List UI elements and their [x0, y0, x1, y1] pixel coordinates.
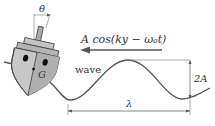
theta-arrowhead	[47, 14, 51, 17]
wave-direction-arrowhead	[80, 47, 90, 54]
amplitude-arrow-top	[189, 60, 192, 64]
diagram-drawing	[0, 0, 215, 126]
wave-expression-label: A cos(ky − ω₀t)	[81, 34, 166, 45]
wave-label: wave	[75, 65, 101, 75]
wavelength-label: λ	[126, 99, 132, 109]
wavelength-arrow-left	[68, 110, 72, 113]
theta-label: θ	[39, 4, 45, 14]
wavelength-arrow-right	[186, 110, 190, 113]
center-of-gravity-label: G	[38, 70, 46, 80]
amplitude-label: 2A	[194, 74, 208, 84]
wave-boat-diagram: θ A cos(ky − ω₀t) wave G 2A λ	[0, 0, 215, 126]
